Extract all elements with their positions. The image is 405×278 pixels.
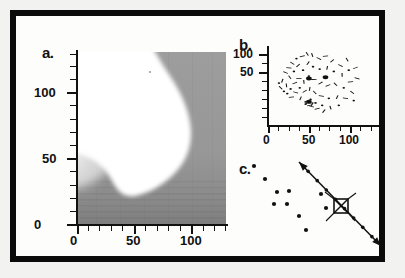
scatter-dash — [317, 57, 321, 59]
scatter-point — [275, 190, 279, 194]
arrow-bead — [306, 170, 310, 174]
scatter-point — [319, 192, 323, 196]
panel-b-xtick-minor — [371, 127, 372, 131]
arrow-segment — [299, 162, 381, 246]
scatter-dash — [306, 52, 308, 55]
panel-c-diagram — [221, 154, 405, 264]
scatter-dash — [327, 66, 328, 70]
panel-a-xtick-minor — [157, 226, 158, 231]
panel-a-ytick-100 — [67, 92, 76, 94]
panel-a-xlabel-50: 50 — [126, 233, 140, 248]
scatter-dash — [330, 106, 331, 110]
scatter-point — [297, 214, 301, 218]
panel-b-xtick-minor — [340, 127, 341, 131]
scatter-dash — [293, 92, 298, 93]
scatter-point — [278, 82, 280, 84]
scatter-point — [328, 97, 330, 99]
scatter-point — [302, 69, 304, 71]
scatter-dash — [292, 82, 297, 84]
panel-b: b. 100 50 — [221, 32, 401, 152]
panel-b-ytick-100 — [259, 54, 267, 56]
panel-a-xtick-minor — [203, 226, 204, 231]
panel-a-y-axis — [76, 50, 78, 226]
panel-a-ytick-50 — [67, 158, 76, 160]
scatter-dash — [313, 91, 316, 94]
scatter-dash — [296, 64, 299, 67]
panel-b-scatter-svg — [269, 48, 377, 124]
scatter-point — [318, 68, 320, 70]
scatter-dash — [326, 85, 331, 87]
scatter-dash — [289, 97, 294, 98]
panel-b-ytick-minor — [262, 63, 267, 64]
panel-a-xtick-minor — [180, 226, 181, 231]
panel-a-xtick-minor — [214, 226, 215, 231]
scatter-dash — [300, 96, 302, 100]
scatter-dash — [350, 91, 354, 94]
scatter-dash — [312, 53, 313, 57]
figure-frame: a. — [10, 10, 385, 262]
panel-a-xtick-minor — [122, 226, 123, 231]
scatter-dash — [286, 68, 291, 69]
scatter-dash — [283, 72, 288, 74]
scatter-cluster — [306, 76, 312, 80]
panel-a-ytick-minor — [70, 171, 76, 172]
panel-a-ylabel-100: 100 — [34, 85, 56, 100]
panel-a-heatmap-svg — [78, 52, 226, 224]
panel-c-dots — [252, 164, 328, 232]
scatter-dash — [307, 62, 309, 65]
panel-a-xtick-0 — [77, 226, 79, 234]
scatter-dash — [309, 106, 314, 107]
panel-a-xlabel-100: 100 — [180, 233, 202, 248]
panel-a-ytick-minor — [70, 105, 76, 106]
panel-b-xlabel-50: 50 — [302, 133, 315, 147]
panel-a-xtick-minor — [111, 226, 112, 231]
scatter-dash — [318, 82, 322, 84]
scatter-point — [348, 69, 350, 71]
scatter-dash — [323, 110, 326, 113]
arrow-segment — [326, 213, 334, 221]
scatter-point — [304, 228, 308, 232]
panel-b-scatter — [269, 48, 377, 124]
arrow-bead — [325, 188, 329, 192]
scatter-dash — [336, 95, 338, 99]
scatter-point — [295, 58, 297, 60]
scatter-dash — [303, 90, 307, 92]
scatter-point — [298, 87, 300, 89]
scatter-point — [304, 103, 306, 105]
scatter-point — [321, 104, 323, 106]
panel-b-ytick-minor — [262, 108, 267, 109]
scatter-point — [286, 93, 288, 95]
panel-b-xtick-minor — [329, 127, 330, 131]
scatter-cluster — [306, 100, 312, 104]
panel-c-arrow — [299, 162, 381, 246]
scatter-dash — [315, 108, 320, 109]
panel-b-ytick-50 — [259, 72, 267, 74]
panel-b-xtick-minor — [299, 127, 300, 131]
panel-a-ytick-minor — [70, 66, 76, 67]
panel-a-xtick-minor — [88, 226, 89, 231]
speck — [149, 71, 151, 73]
panel-b-ytick-minor — [262, 99, 267, 100]
scatter-dash — [300, 56, 305, 57]
scatter-point — [287, 189, 291, 193]
figure-root: a. — [0, 0, 405, 278]
panel-a-label: a. — [42, 44, 54, 61]
panel-b-xtick-minor — [360, 127, 361, 131]
scatter-cluster — [323, 75, 329, 79]
scatter-point — [338, 104, 340, 106]
scatter-dash — [319, 96, 324, 97]
panel-c: c. — [221, 154, 405, 264]
scatter-point — [352, 100, 354, 102]
scatter-dash — [353, 67, 358, 69]
panel-a-ytick-minor — [70, 211, 76, 212]
panel-a-ytick-0 — [67, 224, 76, 226]
panel-a-xtick-minor — [145, 226, 146, 231]
panel-a-ytick-minor — [70, 119, 76, 120]
scatter-dash — [290, 62, 294, 65]
arrow-bead — [361, 226, 365, 230]
scatter-dash — [334, 83, 337, 86]
panel-b-y-axis — [267, 46, 269, 126]
panel-a-ytick-minor — [70, 198, 76, 199]
panel-a-ytick-minor — [70, 145, 76, 146]
scatter-dash — [346, 58, 348, 61]
